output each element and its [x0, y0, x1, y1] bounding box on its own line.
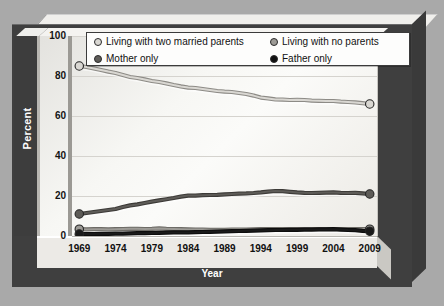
legend-marker-icon: [94, 55, 102, 63]
series-endpoint-marker: [366, 227, 374, 235]
series-endpoint-marker: [75, 230, 83, 236]
legend-label: Living with no parents: [282, 36, 379, 47]
legend-label: Mother only: [106, 53, 158, 64]
legend-item-father-only: Father only: [263, 53, 411, 64]
plot-left-shadow: [37, 36, 40, 236]
plaque-right-shadow: [412, 10, 426, 282]
x-axis-title: Year: [12, 268, 412, 279]
chart-figure: Percent 020406080100 1969197419791984198…: [0, 0, 444, 306]
series-line-outline: [79, 66, 369, 104]
y-axis-title: Percent: [15, 53, 38, 205]
legend-item-mother-only: Mother only: [87, 53, 263, 64]
series-endpoint-marker: [75, 210, 83, 218]
legend-item-no-parents: Living with no parents: [263, 36, 411, 47]
legend-label: Father only: [282, 53, 332, 64]
y-tick-label: 60: [36, 110, 66, 121]
series-endpoint-marker: [366, 100, 374, 108]
y-tick-label: 20: [36, 190, 66, 201]
series-line: [79, 66, 369, 104]
chart-legend: Living with two married parents Living w…: [86, 32, 410, 66]
y-tick-label: 100: [36, 30, 66, 41]
y-axis-wall: Percent: [14, 36, 37, 236]
series-endpoint-marker: [75, 62, 83, 70]
plot-lines: [72, 36, 377, 236]
y-tick-label: 40: [36, 150, 66, 161]
gridline: [72, 236, 377, 237]
legend-marker-icon: [270, 38, 278, 46]
series-endpoint-marker: [366, 190, 374, 198]
y-tick-label: 0: [36, 230, 66, 241]
x-tick-label: 2009: [347, 243, 393, 254]
legend-marker-icon: [270, 55, 278, 63]
legend-label: Living with two married parents: [106, 36, 244, 47]
y-tick-label: 80: [36, 70, 66, 81]
legend-item-two-married-parents: Living with two married parents: [87, 36, 263, 47]
legend-marker-icon: [94, 38, 102, 46]
